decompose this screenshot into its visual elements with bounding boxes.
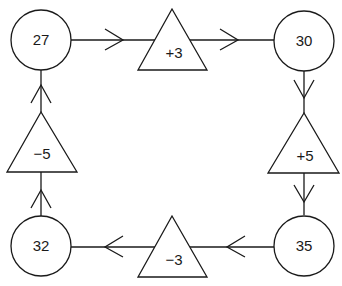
op-label-minus5: −5 bbox=[12, 145, 72, 163]
triangle-op-minus5 bbox=[7, 112, 77, 172]
edge-32-to-minus5 bbox=[31, 172, 51, 216]
op-label-plus3: +3 bbox=[144, 44, 204, 62]
edge-minus5-to-27 bbox=[31, 70, 51, 112]
node-label-30: 30 bbox=[274, 32, 334, 50]
node-label-32: 32 bbox=[11, 237, 71, 255]
edge-30-to-plus5 bbox=[294, 71, 314, 113]
op-label-minus3: −3 bbox=[144, 251, 204, 269]
op-label-plus5: +5 bbox=[275, 147, 335, 165]
edge-27-to-plus3 bbox=[71, 29, 155, 50]
node-label-35: 35 bbox=[274, 237, 334, 255]
node-label-27: 27 bbox=[11, 31, 71, 49]
edge-plus5-to-35 bbox=[294, 173, 314, 215]
edge-minus3-to-32 bbox=[71, 236, 155, 257]
cycle-diagram: 27 +3 30 +5 35 −3 32 −5 bbox=[0, 0, 342, 286]
